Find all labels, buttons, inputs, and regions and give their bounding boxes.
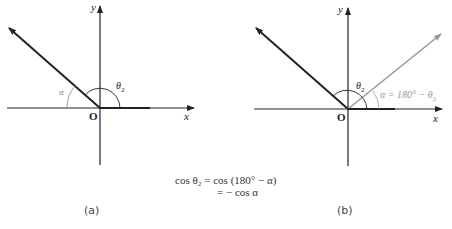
origin-label: O: [337, 111, 346, 123]
vector-theta2: [9, 28, 100, 108]
origin-label: O: [89, 110, 98, 122]
theta-subscript: 2: [361, 86, 365, 94]
alpha-expression-text: α = 180° − θ: [380, 89, 433, 100]
x-axis-label: x: [433, 112, 438, 124]
equation-line-2: = − cos α: [217, 186, 258, 198]
panel-b: [254, 8, 442, 166]
caption-a: (a): [84, 204, 99, 217]
alpha-arc: [373, 91, 379, 109]
caption-b: (b): [337, 204, 353, 217]
alpha-expression: α = 180° − θ2: [380, 89, 436, 103]
theta-subscript: 2: [121, 86, 125, 94]
theta2-label: θ2: [356, 80, 364, 94]
alpha-label: α: [59, 87, 64, 97]
vector-theta2: [256, 28, 348, 109]
alpha-arc: [67, 86, 75, 108]
x-axis-label: x: [184, 110, 189, 122]
theta2-label: θ2: [116, 80, 124, 94]
y-axis-label: y: [338, 3, 343, 15]
equation-line-1: cos θ₂ = cos (180° − α): [175, 174, 276, 186]
panel-a: [7, 6, 194, 165]
y-axis-label: y: [91, 1, 96, 13]
alpha-expression-subscript: 2: [433, 95, 437, 103]
